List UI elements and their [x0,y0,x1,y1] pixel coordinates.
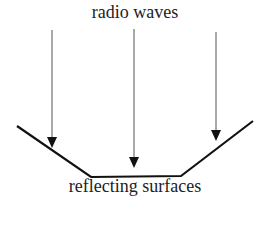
radio-wave-arrows [47,29,221,168]
arrowhead-icon [211,130,221,141]
reflecting-surfaces-label: reflecting surfaces [0,176,270,197]
arrowhead-icon [47,137,57,148]
arrowhead-icon [129,157,139,168]
